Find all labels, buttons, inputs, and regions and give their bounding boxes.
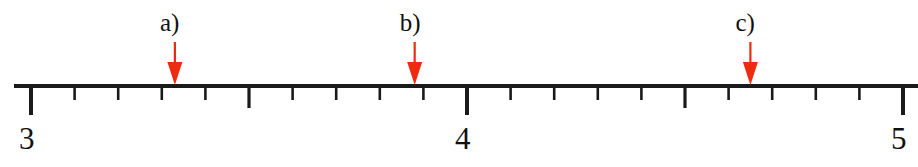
axis-number-label: 3 [19,123,35,154]
arrow-head-icon [407,62,422,85]
value-arrow [167,42,182,85]
axis-number-label: 5 [891,123,907,154]
number-line-figure: 345 a)b)c) [0,0,918,167]
ticks-group [31,85,903,115]
arrow-head-icon [167,62,182,85]
value-arrow [407,42,422,85]
arrow-caption: a) [160,10,179,35]
arrows-group [167,42,758,85]
arrow-caption: b) [400,10,421,35]
arrow-caption: c) [735,10,754,35]
arrow-head-icon [743,62,758,85]
value-arrow [743,42,758,85]
axis-number-label: 4 [455,123,471,154]
